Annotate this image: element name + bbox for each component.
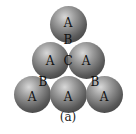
void-center	[64, 70, 72, 76]
label-sphere-mid-right: A	[82, 55, 91, 67]
label-site-b-right: B	[91, 76, 100, 88]
label-sphere-bottom-right: A	[100, 91, 109, 103]
figure-caption: (a)	[0, 110, 136, 124]
label-site-b-left: B	[39, 76, 48, 88]
void-right	[82, 79, 90, 85]
label-site-c: C	[63, 55, 72, 67]
label-sphere-bottom-left: A	[28, 91, 37, 103]
label-sphere-mid-left: A	[46, 55, 55, 67]
label-sphere-top: A	[64, 17, 73, 29]
label-site-b-top: B	[64, 34, 73, 46]
label-sphere-bottom-center: A	[64, 91, 73, 103]
